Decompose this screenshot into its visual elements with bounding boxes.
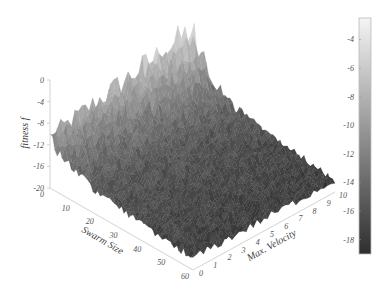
swarm-size-tick-label: 10 xyxy=(62,204,70,213)
max-velocity-tick-label: 10 xyxy=(339,191,347,200)
swarm-size-axis-label: Swarm Size xyxy=(80,224,126,257)
colorbar-tick-label: -4 xyxy=(347,35,354,44)
z-tick-label: -8 xyxy=(37,119,44,128)
colorbar-tick-label: -8 xyxy=(347,93,354,102)
colorbar-tick-label: -12 xyxy=(343,150,354,159)
max-velocity-tick-label: 8 xyxy=(313,207,317,216)
colorbar-tick-label: -6 xyxy=(347,64,354,73)
max-velocity-tick-label: 2 xyxy=(227,253,231,262)
swarm-size-tick-label: 40 xyxy=(133,245,141,254)
z-tick-label: -12 xyxy=(33,141,44,150)
swarm-size-tick-label: 0 xyxy=(40,190,44,199)
z-tick-label: -16 xyxy=(33,162,44,171)
max-velocity-tick-label: 1 xyxy=(213,261,217,270)
swarm-size-tick-label: 50 xyxy=(157,258,165,267)
colorbar-tick-label: -14 xyxy=(343,178,354,187)
max-velocity-tick-label: 0 xyxy=(199,269,203,278)
z-tick-label: 0 xyxy=(40,76,44,85)
colorbar xyxy=(359,18,371,254)
z-axis-ticks: 0-4-8-12-16-20 xyxy=(33,76,50,193)
colorbar-tick-label: -18 xyxy=(343,236,354,245)
max-velocity-tick-label: 7 xyxy=(298,214,303,223)
swarm-size-tick-label: 60 xyxy=(181,272,189,281)
surface-plot: 0-4-8-12-16-20 0102030405060 01234567891… xyxy=(0,0,386,293)
z-axis-label: fitness f xyxy=(19,116,30,148)
colorbar-tick-label: -16 xyxy=(343,207,354,216)
z-tick-label: -4 xyxy=(37,98,44,107)
max-velocity-tick-label: 9 xyxy=(327,199,331,208)
colorbar-ticks: -4-6-8-10-12-14-16-18 xyxy=(343,35,361,244)
colorbar-tick-label: -10 xyxy=(343,121,354,130)
colorbar-gradient xyxy=(359,18,371,254)
